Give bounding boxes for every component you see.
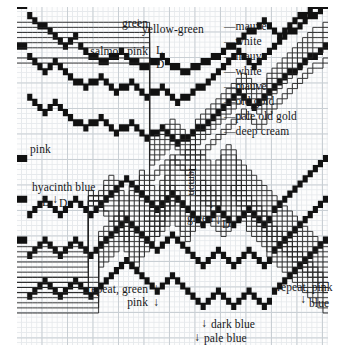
arrow-dark-mid: ↓ [52,194,58,204]
arrow-green-top: ↓ [135,17,141,27]
stitch-pattern-drawing [0,0,345,357]
stitch-chart-figure: green ↓ yellow-green salmon pink L ↓ D —… [0,0,345,357]
arrow-dark-top: ↓ [147,55,153,65]
arrow-dark-blue: ↓ [201,318,207,328]
label-repeat-green: repeat, green [60,283,148,295]
right-label-3: —white [224,65,262,77]
label-salmon-pink: salmon pink [60,45,148,57]
label-pale-blue: pale blue [204,332,247,344]
right-label-4: —mauve [224,80,267,92]
label-repeat-pink-2: blue [309,297,329,309]
label-dark-blue: dark blue [211,318,255,330]
label-dark-mid: D [59,197,67,209]
label-pink: pink [30,143,51,155]
label-repeat-green-2: pink [60,296,148,308]
right-label-2: —mauve [224,50,267,62]
label-light-top: L [156,44,163,56]
label-green-mid: green [187,212,213,224]
right-label-1: —white [224,35,262,47]
label-hyacinth-blue: hyacinth blue [32,181,96,193]
arrow-repeat-green: ↓ [153,283,159,293]
label-light-mid: L [42,196,49,208]
arrow-green-mid: ↓ [208,199,214,209]
arrow-pale-blue: ↓ [194,332,200,342]
label-dark-top: D [156,58,164,70]
right-label-5: —old gold [224,95,274,107]
label-dark-mid2: D [222,218,230,230]
right-label-7: —deep cream [224,125,289,137]
right-label-6: —pale old gold [224,110,297,122]
arrow-repeat-pink-left: ↓ [153,297,159,307]
arrow-dark-mid2: ↓ [215,215,221,225]
arrow-repeat-pink: ↓ [300,294,306,304]
right-label-0: —mauve [224,20,267,32]
label-lemon: lemon [187,168,199,196]
label-yellow-green: yellow-green [142,23,204,35]
